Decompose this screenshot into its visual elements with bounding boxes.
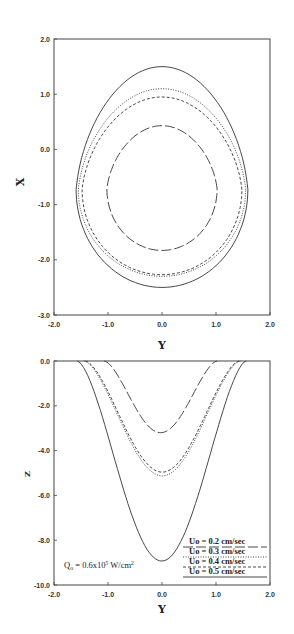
curve-dotted	[78, 89, 245, 277]
bottom-y-axis-label: Z	[22, 471, 32, 477]
y-tick-label: -10.0	[34, 582, 50, 589]
bottom-plot: 0.0-2.0-4.0-6.0-8.0-10.0 -2.0-1.00.01.02…	[22, 358, 275, 617]
y-tick-label: -3.0	[38, 312, 50, 319]
top-x-axis-label: Y	[157, 339, 166, 352]
y-tick-label: -2.0	[38, 402, 50, 409]
profile-dotted	[84, 361, 240, 476]
y-tick-label: -1.0	[38, 201, 50, 208]
x-tick-label: 0.0	[157, 321, 167, 328]
bottom-x-ticks: -2.0-1.00.01.02.0	[48, 582, 275, 598]
legend-entry-2: Uo = 0.4 cm/sec	[189, 556, 246, 566]
top-plot-frame	[54, 39, 270, 315]
x-tick-label: 1.0	[211, 321, 221, 328]
top-x-ticks: -2.0-1.00.01.02.0	[48, 312, 275, 328]
x-tick-label: -1.0	[102, 321, 114, 328]
x-tick-label: -2.0	[48, 321, 60, 328]
x-tick-label: 2.0	[265, 321, 275, 328]
top-curves	[76, 67, 248, 288]
profile-long-dash	[104, 361, 217, 433]
legend-entry-0: Uo = 0.2 cm/sec	[189, 536, 246, 546]
curve-dashed	[82, 97, 242, 275]
y-tick-label: 2.0	[40, 36, 50, 43]
figure: 2.01.00.0-1.0-2.0-3.0 -2.0-1.00.01.02.0 …	[0, 0, 294, 634]
x-tick-label: 1.0	[211, 591, 221, 598]
heat-flux-annotation: Qo = 0.6x105 W/cm2	[64, 560, 134, 571]
x-tick-label: -2.0	[48, 591, 60, 598]
x-tick-label: 2.0	[265, 591, 275, 598]
y-tick-label: -6.0	[38, 492, 50, 499]
bottom-curves	[77, 361, 246, 561]
curve-solid	[76, 67, 248, 288]
legend-entry-3: Uo = 0.5 cm/sec	[189, 566, 246, 576]
profile-solid	[77, 361, 246, 561]
y-tick-label: -8.0	[38, 537, 50, 544]
profile-dashed	[85, 361, 239, 472]
legend: Uo = 0.2 cm/sec Uo = 0.3 cm/sec Uo = 0.4…	[183, 536, 267, 577]
y-tick-label: 0.0	[40, 146, 50, 153]
y-tick-label: 1.0	[40, 91, 50, 98]
y-tick-label: -4.0	[38, 447, 50, 454]
legend-entry-1: Uo = 0.3 cm/sec	[189, 546, 246, 556]
x-tick-label: -1.0	[102, 591, 114, 598]
x-tick-label: 0.0	[157, 591, 167, 598]
top-y-axis-label: X	[14, 177, 27, 186]
bottom-x-axis-label: Y	[157, 603, 166, 616]
y-tick-label: 0.0	[40, 358, 50, 365]
y-tick-label: -2.0	[38, 256, 50, 263]
top-plot: 2.01.00.0-1.0-2.0-3.0 -2.0-1.00.01.02.0 …	[14, 36, 275, 353]
curve-long-dash	[107, 126, 217, 251]
